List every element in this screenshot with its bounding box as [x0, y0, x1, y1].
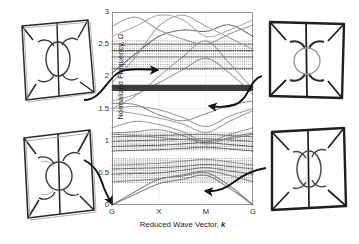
unit-cell-mode-top-right[interactable]	[262, 16, 352, 106]
ytick-2: 2	[105, 73, 109, 81]
xtick-G-left: G	[109, 208, 115, 216]
plot-canvas	[112, 12, 253, 205]
xtick-M: M	[203, 208, 209, 216]
ytick-1: 1	[105, 137, 109, 145]
figure-root: 0 0.5 1 1.5 2 2.5 3 G X M G Normalized F…	[0, 0, 359, 244]
unit-cell-drawing-bottom-right	[264, 122, 354, 218]
unit-cell-mode-bottom-left[interactable]	[10, 122, 104, 226]
unit-cell-drawing-top-right	[262, 16, 352, 106]
band-structure-plot: 0 0.5 1 1.5 2 2.5 3 G X M G Normalized F…	[112, 12, 253, 205]
xtick-G-right: G	[250, 208, 256, 216]
unit-cell-drawing-bottom-left	[10, 122, 104, 226]
y-axis-label: Normalized Frequency, Ω	[116, 17, 125, 137]
x-axis-label-symbol: k	[221, 220, 225, 229]
unit-cell-drawing-top-left	[8, 14, 102, 106]
xtick-X: X	[156, 208, 161, 216]
x-axis-label-text: Reduced Wave Vector,	[140, 220, 221, 229]
ytick-3: 3	[105, 8, 109, 16]
unit-cell-mode-top-left[interactable]	[8, 14, 102, 106]
unit-cell-mode-bottom-right[interactable]	[264, 122, 354, 218]
x-axis-label: Reduced Wave Vector, k	[140, 220, 226, 229]
